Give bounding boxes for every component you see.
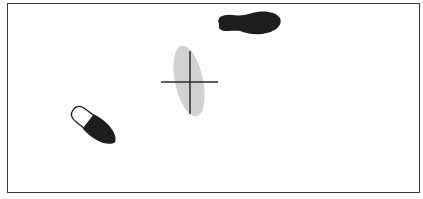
bottom-left-footprint-icon: [67, 102, 121, 151]
diagram-canvas: [0, 0, 423, 199]
crosshair-icon: [161, 51, 218, 114]
target-ellipse: [168, 43, 210, 119]
top-footprint-icon: [218, 11, 280, 34]
